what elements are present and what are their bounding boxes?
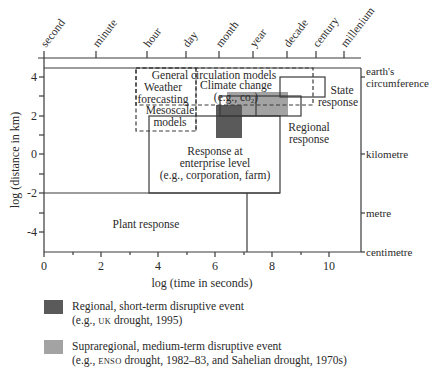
right-label-metre: metre xyxy=(366,207,391,219)
enterprise-label-3: (e.g., corporation, farm) xyxy=(160,169,271,182)
mesoscale-label-2: models xyxy=(153,116,187,128)
x-axis-title: log (time in seconds) xyxy=(152,276,253,290)
legend-item-regional: Regional, short-term disruptive event (e… xyxy=(44,299,434,329)
right-label-centimetre: centimetre xyxy=(366,246,413,258)
top-label-decade: decade xyxy=(281,17,310,50)
right-label-circumference: circumference xyxy=(366,77,429,89)
regional-label-2: response xyxy=(289,133,329,146)
y-tick-neg2: -2 xyxy=(27,186,37,200)
top-label-century: century xyxy=(310,14,342,49)
x-tick-8: 8 xyxy=(269,259,275,273)
right-label-earth: earth's xyxy=(366,65,394,77)
y-tick-2: 2 xyxy=(31,109,37,123)
y-tick-4: 4 xyxy=(31,70,37,84)
y-tick-0: 0 xyxy=(31,147,37,161)
top-label-hour: hour xyxy=(141,25,164,49)
right-label-kilometre: kilometre xyxy=(366,148,408,160)
x-tick-2: 2 xyxy=(98,259,104,273)
plant-label: Plant response xyxy=(113,218,180,231)
legend-item-supraregional: Supraregional, medium-term disruptive ev… xyxy=(44,339,434,369)
top-label-minute: minute xyxy=(90,17,119,50)
scale-diagram: second minute hour day month year decade… xyxy=(0,0,437,290)
y-tick-neg4: -4 xyxy=(27,225,37,239)
state-label-2: response xyxy=(318,96,358,109)
dark-gray-swatch xyxy=(44,300,63,314)
top-label-second: second xyxy=(38,16,67,49)
x-tick-6: 6 xyxy=(212,259,218,273)
x-tick-10: 10 xyxy=(323,259,335,273)
legend-supraregional-example: (e.g., ENSO drought, 1982–83, and Saheli… xyxy=(72,353,347,368)
x-tick-0: 0 xyxy=(41,259,47,273)
top-label-year: year xyxy=(247,26,270,50)
weather-label-1: Weather xyxy=(144,81,182,93)
x-tick-4: 4 xyxy=(155,259,161,273)
top-label-month: month xyxy=(213,18,241,49)
state-label-1: State xyxy=(331,84,354,96)
top-label-millenium: millenium xyxy=(338,5,377,50)
legend-regional-example: (e.g., UK drought, 1995) xyxy=(72,313,244,328)
y-axis-title: log (distance in km) xyxy=(8,112,22,208)
top-label-day: day xyxy=(180,29,201,50)
legend-supraregional-title: Supraregional, medium-term disruptive ev… xyxy=(72,339,347,353)
legend-regional-title: Regional, short-term disruptive event xyxy=(72,299,244,313)
mesoscale-label-1: Mesoscale xyxy=(146,104,195,116)
light-gray-swatch xyxy=(44,340,63,354)
